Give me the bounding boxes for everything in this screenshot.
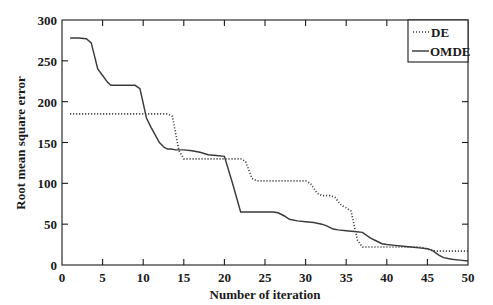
legend-label-de: DE <box>431 25 449 40</box>
x-tick-label: 45 <box>421 270 435 285</box>
y-axis-title: Root mean square error <box>13 76 28 210</box>
x-axis-ticks <box>103 20 428 265</box>
x-tick-label: 25 <box>259 270 273 285</box>
x-tick-label: 40 <box>380 270 393 285</box>
y-tick-label: 150 <box>38 136 58 151</box>
x-tick-label: 10 <box>137 270 150 285</box>
plot-area-border <box>62 20 468 265</box>
series-line-de <box>70 114 468 251</box>
rmse-convergence-chart: 05101520253035404550 050100150200250300 … <box>0 0 493 305</box>
chart-legend: DE OMDE <box>408 20 470 62</box>
y-tick-label: 200 <box>38 95 58 110</box>
legend-label-omde: OMDE <box>430 44 470 59</box>
x-tick-label: 30 <box>299 270 312 285</box>
x-tick-label: 15 <box>177 270 191 285</box>
x-tick-label: 35 <box>340 270 354 285</box>
data-series-group <box>70 38 468 261</box>
series-line-omde <box>70 38 468 261</box>
y-tick-label: 300 <box>38 13 58 28</box>
y-tick-label: 0 <box>51 258 58 273</box>
y-tick-label: 250 <box>38 54 58 69</box>
chart-figure: 05101520253035404550 050100150200250300 … <box>0 0 493 305</box>
y-axis-tick-labels: 050100150200250300 <box>38 13 58 273</box>
x-tick-label: 20 <box>218 270 231 285</box>
x-axis-title: Number of iteration <box>210 287 322 302</box>
x-tick-label: 5 <box>99 270 106 285</box>
y-tick-label: 50 <box>44 217 57 232</box>
x-tick-label: 0 <box>59 270 66 285</box>
x-axis-tick-labels: 05101520253035404550 <box>59 270 475 285</box>
x-tick-label: 50 <box>462 270 475 285</box>
y-tick-label: 100 <box>38 176 58 191</box>
plot-frame <box>62 20 468 265</box>
